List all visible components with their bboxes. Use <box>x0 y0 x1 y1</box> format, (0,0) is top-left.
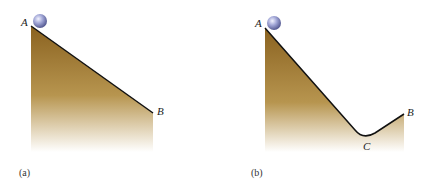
ball-icon <box>33 14 47 28</box>
panel-a: A B (a) <box>19 14 164 179</box>
point-label-a-A: A <box>20 16 28 28</box>
point-label-b-A: A <box>254 17 262 29</box>
ball-icon <box>267 16 281 30</box>
incline-ground-a <box>31 26 153 152</box>
panel-caption-a: (a) <box>19 167 30 179</box>
valley-ground-b <box>265 28 404 152</box>
point-label-a-B: B <box>157 105 164 117</box>
panel-b: A B C (b) <box>251 16 414 179</box>
point-label-b-B: B <box>407 106 414 118</box>
figure-canvas: A B (a) A B C (b) <box>0 0 428 184</box>
panel-caption-b: (b) <box>251 167 263 179</box>
point-label-b-C: C <box>363 140 371 152</box>
